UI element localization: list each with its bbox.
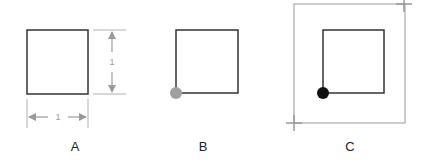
crosshair-top-right-icon [396, 0, 412, 12]
panel-label-a: A [71, 140, 80, 153]
panel-c [286, 0, 412, 131]
panel-label-c: C [345, 140, 354, 153]
crosshair-bottom-left-icon [286, 115, 302, 131]
diagram-canvas [0, 0, 428, 164]
square-b [176, 30, 238, 93]
panel-b [170, 30, 238, 99]
origin-point-gray [170, 87, 182, 99]
square-c [323, 30, 384, 93]
height-dimension-label: 1 [108, 58, 115, 67]
panel-label-b: B [199, 140, 208, 153]
width-dimension-label: 1 [54, 113, 61, 122]
origin-point-black [317, 87, 329, 99]
panel-a [27, 30, 126, 128]
bounding-frame [294, 4, 405, 123]
unit-square-a [27, 30, 88, 94]
